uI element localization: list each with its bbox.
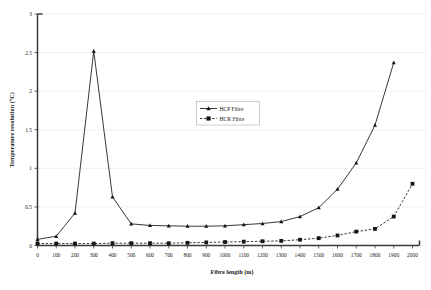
data-point-marker <box>279 239 283 243</box>
y-tick-label: 3 <box>29 11 32 17</box>
data-point-marker <box>317 236 321 240</box>
y-tick-label: 0 <box>29 243 32 249</box>
y-tick-label: 2 <box>29 88 32 94</box>
series-line-hcr-fibre <box>38 184 413 244</box>
data-point-marker <box>392 215 396 219</box>
x-axis-title: Fibre length (m) <box>210 268 253 276</box>
data-point-marker <box>186 241 190 245</box>
x-tick-labels-group: 0100200300400500600700800900100011001200… <box>36 252 418 258</box>
x-tick-label: 200 <box>71 252 79 258</box>
x-tick-label: 1800 <box>370 252 381 258</box>
data-point-marker <box>167 241 171 245</box>
y-tick-label: 2.5 <box>25 50 32 56</box>
x-tick-label: 700 <box>165 252 173 258</box>
data-series-group <box>36 49 415 246</box>
x-tick-label: 600 <box>146 252 154 258</box>
data-point-marker <box>223 240 227 244</box>
line-chart: 0100200300400500600700800900100011001200… <box>0 0 431 290</box>
x-tick-label: 300 <box>90 252 98 258</box>
x-tick-label: 1100 <box>238 252 249 258</box>
data-point-marker <box>392 61 396 65</box>
x-tick-label: 1700 <box>351 252 362 258</box>
x-tick-label: 1200 <box>257 252 268 258</box>
x-tickmarks-group <box>38 246 413 249</box>
series-line-hcp-fibre <box>38 51 394 239</box>
data-point-marker <box>354 161 358 165</box>
data-point-marker <box>148 241 152 245</box>
y-tick-labels-group: 00.511.522.53 <box>25 11 32 249</box>
data-point-marker <box>373 227 377 231</box>
data-point-marker <box>242 240 246 244</box>
x-tick-label: 0 <box>36 252 39 258</box>
x-tick-label: 1500 <box>313 252 324 258</box>
data-point-marker <box>36 242 40 246</box>
legend-item-label: HCR Fibre <box>220 116 245 122</box>
x-tick-label: 900 <box>202 252 210 258</box>
x-tick-label: 100 <box>52 252 60 258</box>
data-point-marker <box>411 182 415 186</box>
x-tick-label: 800 <box>183 252 191 258</box>
data-point-marker <box>373 123 377 127</box>
x-tick-label: 1400 <box>295 252 306 258</box>
data-point-marker <box>92 242 96 246</box>
data-point-marker <box>92 49 96 53</box>
x-tick-label: 400 <box>108 252 116 258</box>
data-point-marker <box>54 242 58 246</box>
y-tick-label: 1 <box>29 165 32 171</box>
chart-legend: HCP FibreHCR Fibre <box>197 102 260 126</box>
y-tick-label: 1.5 <box>25 127 32 133</box>
gridlines-group <box>38 14 427 246</box>
legend-item-label: HCP Fibre <box>220 106 244 112</box>
data-point-marker <box>73 211 77 215</box>
data-point-marker <box>354 230 358 234</box>
chart-container: 0100200300400500600700800900100011001200… <box>0 0 431 290</box>
x-tick-label: 1900 <box>388 252 399 258</box>
x-tick-label: 1600 <box>332 252 343 258</box>
data-point-marker <box>336 234 340 238</box>
y-axis-title: Temperature resolution (°C) <box>8 92 16 167</box>
x-tick-label: 1300 <box>276 252 287 258</box>
data-point-marker <box>204 241 208 245</box>
data-point-marker <box>111 241 115 245</box>
x-tick-label: 500 <box>127 252 135 258</box>
data-point-marker <box>73 242 77 246</box>
data-point-marker <box>111 195 115 199</box>
x-tick-label: 1000 <box>220 252 231 258</box>
legend-marker-square-icon <box>206 116 210 120</box>
x-tick-label: 2000 <box>407 252 418 258</box>
data-point-marker <box>298 238 302 242</box>
data-point-marker <box>261 239 265 243</box>
data-point-marker <box>129 241 133 245</box>
y-tick-label: 0.5 <box>25 204 32 210</box>
